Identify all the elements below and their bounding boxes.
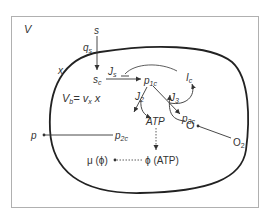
o2-line — [198, 126, 231, 138]
environment-frame — [12, 17, 259, 208]
production-rate-label: Vb= vx x — [62, 92, 101, 105]
j3-label: J3 — [169, 92, 179, 104]
growth-rate-label: μ (ϕ) — [87, 155, 108, 166]
ic-label: Ic — [186, 72, 193, 84]
metabolic-diagram: V s qs x sc Js p1c Ic J2 J3 Vb= vx x p2c… — [0, 0, 269, 221]
j2-label: J2 — [134, 91, 144, 103]
uptake-label: qs — [83, 42, 93, 54]
energy-function-label: ϕ (ATP) — [145, 155, 179, 166]
atp-label: ATP — [145, 116, 165, 127]
oxygen-inside-label: O — [186, 119, 195, 131]
p2c-label: p2c — [114, 130, 128, 142]
oxygen-outside-label: O2 — [233, 137, 245, 149]
js-label: Js — [107, 66, 117, 78]
ic-inhibition-line — [125, 65, 177, 74]
p1c-label: p1c — [143, 75, 157, 87]
volume-label: V — [24, 23, 33, 35]
biomass-label: x — [57, 65, 64, 76]
product-outside-label: p — [30, 130, 37, 141]
substrate-outside-label: s — [94, 25, 99, 36]
substrate-inside-label: sc — [93, 74, 102, 86]
